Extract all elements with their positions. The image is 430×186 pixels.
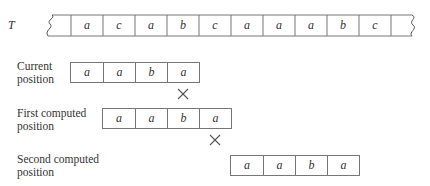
first-computed-position-label: First computed position: [17, 107, 86, 133]
second-computed-position-label: Second computed position: [17, 153, 99, 179]
text-cell: a: [295, 14, 327, 37]
mismatch-x-icon: [177, 88, 189, 100]
text-cell: b: [167, 14, 199, 37]
pattern-cell: a: [135, 109, 167, 128]
pattern-cell: b: [135, 63, 167, 82]
pattern-cell: a: [231, 156, 263, 175]
current-pattern-box: a a b a: [70, 62, 200, 83]
text-label: T: [8, 15, 15, 36]
text-tape: a c a b c a a a b c: [44, 14, 420, 37]
label-line: Second computed: [17, 153, 99, 166]
mismatch-x-icon: [209, 134, 221, 146]
pattern-cell: a: [327, 156, 359, 175]
text-cell: a: [71, 14, 103, 37]
text-cell: a: [135, 14, 167, 37]
label-line: First computed: [17, 107, 86, 120]
text-cell: b: [327, 14, 359, 37]
pattern-cell: a: [199, 109, 231, 128]
pattern-cell: a: [263, 156, 295, 175]
current-position-label: Current position: [17, 60, 54, 86]
pattern-cell: a: [167, 63, 199, 82]
label-line: position: [17, 73, 54, 86]
text-cell: a: [263, 14, 295, 37]
text-cell: c: [103, 14, 135, 37]
pattern-cell: a: [103, 109, 135, 128]
text-cell: c: [359, 14, 391, 37]
label-line: position: [17, 166, 99, 179]
pattern-cell: a: [103, 63, 135, 82]
pattern-cell: b: [167, 109, 199, 128]
label-line: Current: [17, 60, 54, 73]
first-computed-pattern-box: a a b a: [102, 108, 232, 129]
pattern-cell: a: [71, 63, 103, 82]
second-computed-pattern-box: a a b a: [230, 155, 360, 176]
pattern-cell: b: [295, 156, 327, 175]
text-cell: a: [231, 14, 263, 37]
label-line: position: [17, 120, 86, 133]
text-cell: c: [199, 14, 231, 37]
